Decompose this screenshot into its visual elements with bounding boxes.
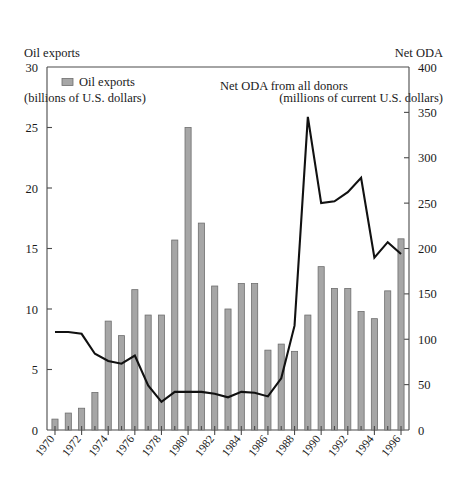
right-tick-label: 0 (418, 424, 424, 438)
annotation-group: Net ODA from all donors (220, 79, 348, 93)
x-tick-label: 1992 (326, 433, 350, 459)
bar (345, 288, 351, 430)
x-tick-label: 1982 (193, 433, 217, 459)
bar (398, 239, 404, 430)
bar (331, 288, 337, 430)
x-tick-label: 1978 (139, 433, 163, 459)
bar (385, 291, 391, 430)
x-tick-label: 1976 (113, 433, 137, 459)
bar (238, 284, 244, 430)
x-tick-label: 1974 (86, 433, 110, 459)
left-axis-ticks: 051015202530 (26, 61, 53, 438)
bar (291, 351, 297, 430)
bar (318, 267, 324, 430)
x-axis-ticks: 1970197219741976197819801982198419861988… (33, 426, 403, 458)
annotation-net-oda: Net ODA from all donors (220, 79, 348, 93)
left-tick-label: 5 (32, 363, 38, 377)
bar (278, 344, 284, 430)
legend: Oil exports (62, 75, 135, 89)
bar (118, 336, 124, 430)
bar (105, 321, 111, 430)
bar (358, 311, 364, 430)
x-tick-label: 1980 (166, 433, 190, 459)
left-tick-label: 10 (26, 303, 39, 317)
left-tick-label: 0 (32, 424, 38, 438)
right-tick-label: 250 (418, 197, 437, 211)
chart-figure: Oil exports (billions of U.S. dollars) N… (0, 0, 455, 479)
right-tick-label: 300 (418, 151, 437, 165)
left-tick-label: 15 (26, 242, 39, 256)
x-tick-label: 1986 (246, 433, 270, 459)
x-tick-label: 1984 (219, 433, 243, 459)
x-tick-label: 1988 (273, 433, 297, 459)
right-tick-label: 350 (418, 106, 437, 120)
x-tick-label: 1972 (60, 433, 84, 459)
left-tick-label: 25 (26, 121, 39, 135)
bar-series-oil-exports (52, 128, 404, 431)
bar (145, 315, 151, 430)
bar (185, 128, 191, 431)
bar (225, 309, 231, 430)
bar (212, 286, 218, 430)
right-tick-label: 50 (418, 378, 431, 392)
bar (198, 223, 204, 430)
x-tick-label: 1996 (379, 433, 403, 459)
left-tick-label: 30 (26, 61, 39, 75)
bar (252, 284, 258, 430)
bar (371, 319, 377, 430)
legend-bar-swatch-icon (62, 79, 73, 86)
bar (92, 392, 98, 430)
chart-plot-area: 051015202530 050100150200250300350400 19… (0, 0, 455, 479)
bar (265, 350, 271, 430)
bar (172, 240, 178, 430)
legend-label-oil-exports: Oil exports (79, 75, 135, 89)
bar (158, 315, 164, 430)
right-tick-label: 100 (418, 333, 437, 347)
x-tick-label: 1990 (299, 433, 323, 459)
x-tick-label: 1994 (352, 433, 376, 459)
right-tick-label: 150 (418, 287, 437, 301)
right-tick-label: 200 (418, 242, 437, 256)
right-tick-label: 400 (418, 61, 437, 75)
left-tick-label: 20 (26, 182, 39, 196)
bar (305, 315, 311, 430)
